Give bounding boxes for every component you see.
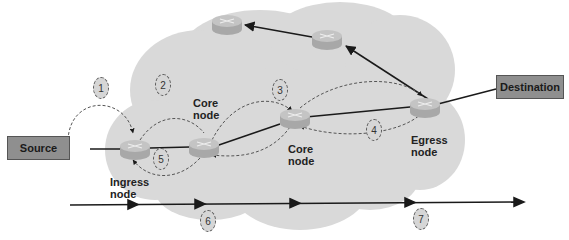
step-2-marker: 2 [155,74,171,96]
core2-label-line1: Core [288,143,314,155]
router-icon [212,15,242,35]
router-icon [410,98,440,118]
router-icon [280,109,310,129]
ingress-node-label: Ingress node [110,176,149,200]
source-box: Source [7,136,70,160]
ingress-label-line1: Ingress [110,176,149,188]
step-6-marker: 6 [200,210,216,232]
core-node-1-label: Core node [193,97,219,121]
router-icon [189,138,219,158]
step-3-marker: 3 [272,79,288,101]
egress-label-line2: node [411,146,448,158]
step-7-marker: 7 [413,208,429,230]
ingress-label-line2: node [110,188,149,200]
router-icon [312,30,342,50]
step-1-marker: 1 [93,77,109,99]
egress-node-label: Egress node [411,134,448,158]
core2-label-line2: node [288,155,314,167]
diagram-canvas [0,0,569,240]
core-node-2-label: Core node [288,143,314,167]
mpls-path-diagram: Source Destination Ingress node Core nod… [0,0,569,240]
egress-label-line1: Egress [411,134,448,146]
router-icon [120,140,150,160]
step-4-marker: 4 [366,119,382,141]
core1-label-line2: node [193,109,219,121]
step-5-marker: 5 [153,148,169,170]
destination-box: Destination [496,75,564,99]
core1-label-line1: Core [193,97,219,109]
